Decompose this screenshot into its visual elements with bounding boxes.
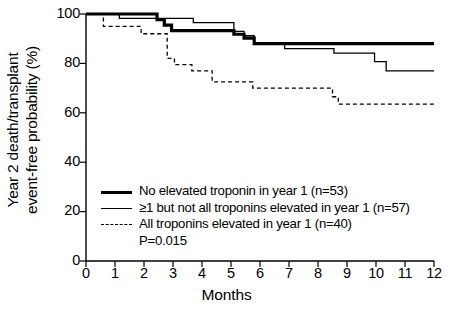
- legend-swatch-solid-thin-icon: [101, 202, 132, 214]
- y-axis-ticks: [80, 14, 86, 261]
- legend-item-all-troponins-elevated: All troponins elevated in year 1 (n=40): [101, 216, 410, 233]
- legend-label-all-troponins-elevated: All troponins elevated in year 1 (n=40): [139, 216, 352, 233]
- p-value-annotation: P=0.015: [139, 233, 410, 250]
- legend-label-no-elevated-troponin: No elevated troponin in year 1 (n=53): [139, 183, 348, 200]
- legend-swatch-dashed-icon: [101, 218, 132, 230]
- kaplan-meier-figure: Year 2 death/transplant event-free proba…: [0, 0, 453, 319]
- chart-legend: No elevated troponin in year 1 (n=53) ≥1…: [101, 183, 410, 249]
- series-lines: [86, 14, 434, 104]
- series-line-all-troponins-elevated: [86, 14, 434, 104]
- legend-label-some-troponins-elevated: ≥1 but not all troponins elevated in yea…: [139, 200, 410, 217]
- legend-item-some-troponins-elevated: ≥1 but not all troponins elevated in yea…: [101, 200, 410, 217]
- legend-swatch-solid-bold-icon: [101, 185, 132, 197]
- legend-item-no-elevated-troponin: No elevated troponin in year 1 (n=53): [101, 183, 410, 200]
- x-axis-ticks: [86, 261, 434, 267]
- plot-area: [0, 0, 453, 319]
